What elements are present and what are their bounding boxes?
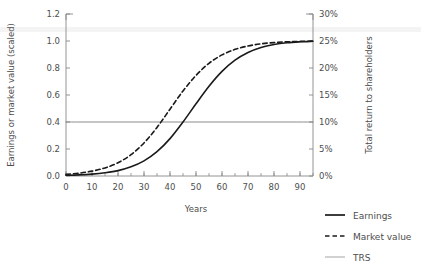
x-tick-label: 20 — [113, 182, 124, 192]
right-tick-label: 30% — [319, 9, 338, 19]
right-tick-label: 0% — [319, 171, 333, 181]
x-tick-label: 30 — [139, 182, 150, 192]
x-tick-label: 0 — [63, 182, 68, 192]
x-tick-label: 60 — [217, 182, 228, 192]
right-tick-label: 25% — [319, 36, 338, 46]
x-tick-label: 70 — [243, 182, 254, 192]
y2-axis-title: Total return to shareholders — [364, 36, 374, 155]
x-tick-label: 40 — [165, 182, 176, 192]
right-tick-label: 5% — [319, 144, 333, 154]
legend-label: Market value — [353, 232, 412, 242]
x-tick-label: 90 — [295, 182, 306, 192]
x-tick-label: 10 — [87, 182, 98, 192]
legend-label: Earnings — [353, 211, 392, 221]
y-axis-title: Earnings or market value (scaled) — [6, 23, 16, 167]
right-tick-label: 20% — [319, 63, 338, 73]
left-tick-label: 1.0 — [46, 36, 60, 46]
legend-label: TRS — [352, 253, 371, 263]
right-tick-label: 10% — [319, 117, 338, 127]
x-tick-label: 50 — [191, 182, 202, 192]
right-tick-label: 15% — [319, 90, 338, 100]
x-tick-label: 80 — [269, 182, 280, 192]
x-axis-title: Years — [184, 204, 208, 214]
left-tick-label: 0.8 — [46, 63, 60, 73]
left-tick-label: 0.2 — [46, 144, 60, 154]
left-tick-label: 0.6 — [46, 90, 60, 100]
background-band — [0, 27, 421, 32]
chart-figure: 0.00.20.40.60.81.01.2 0%5%10%15%20%25%30… — [0, 0, 421, 272]
left-tick-label: 0.0 — [46, 171, 60, 181]
left-tick-label: 1.2 — [46, 9, 60, 19]
left-tick-label: 0.4 — [46, 117, 60, 127]
